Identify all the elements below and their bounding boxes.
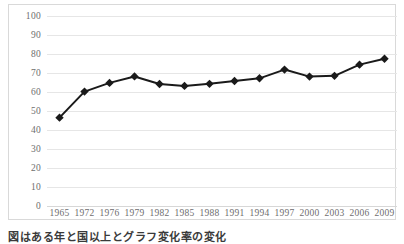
data-point-marker [355,60,363,68]
y-tick-label: 50 [31,106,41,116]
data-point-marker [230,77,238,85]
x-tick-label: 2003 [325,208,345,218]
x-tick-label: 1988 [200,208,220,218]
data-point-marker [205,80,213,88]
y-tick-label: 90 [31,30,41,40]
x-tick-label: 1972 [75,208,95,218]
y-tick-label: 60 [31,87,41,97]
x-tick-label: 1982 [150,208,170,218]
line-series [47,16,397,206]
x-axis-tick-labels: 1965197219761979198219851988199119941997… [47,208,397,222]
x-tick-label: 2006 [350,208,370,218]
x-tick-label: 1991 [225,208,245,218]
y-tick-label: 10 [31,182,41,192]
y-tick-label: 70 [31,68,41,78]
x-tick-label: 2009 [375,208,395,218]
gridline [47,206,397,207]
y-tick-label: 40 [31,125,41,135]
data-point-marker [105,79,113,87]
chart-frame: 1009080706050403020100 19651972197619791… [8,4,396,220]
plot-area: 1009080706050403020100 [47,16,397,206]
data-point-marker [255,74,263,82]
x-tick-label: 1965 [50,208,70,218]
data-point-marker [380,55,388,63]
data-point-marker [180,82,188,90]
y-tick-label: 0 [36,201,41,211]
y-tick-label: 20 [31,163,41,173]
data-point-marker [330,72,338,80]
y-tick-label: 100 [26,11,41,21]
data-point-marker [155,80,163,88]
figure-caption: 図はある年と国以上とグラフ変化率の変化 [8,228,404,244]
x-tick-label: 1979 [125,208,145,218]
x-tick-label: 1985 [175,208,195,218]
x-tick-label: 1997 [275,208,295,218]
series-markers [55,55,388,122]
x-tick-label: 1976 [100,208,120,218]
data-point-marker [305,72,313,80]
data-point-marker [280,65,288,73]
x-tick-label: 1994 [250,208,270,218]
x-tick-label: 2000 [300,208,320,218]
data-point-marker [130,72,138,80]
series-line [60,59,385,118]
y-tick-label: 30 [31,144,41,154]
y-tick-label: 80 [31,49,41,59]
